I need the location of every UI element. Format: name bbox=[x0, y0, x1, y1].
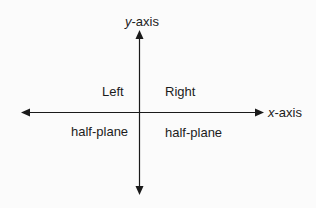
y-axis-down-arrow-icon bbox=[136, 186, 144, 195]
x-axis-label: x-axis bbox=[268, 106, 302, 119]
x-axis-left-arrow-icon bbox=[21, 109, 30, 117]
y-axis-up-arrow-icon bbox=[136, 30, 144, 39]
x-axis-right-arrow-icon bbox=[255, 109, 264, 117]
left-region-label-line1: Left bbox=[102, 85, 124, 98]
y-axis-suffix: -axis bbox=[132, 14, 159, 29]
left-region-label-line2: half-plane bbox=[71, 125, 128, 138]
right-region-label-line1: Right bbox=[165, 85, 195, 98]
axes-canvas bbox=[0, 0, 316, 208]
x-axis-suffix: -axis bbox=[275, 105, 302, 120]
right-region-label-line2: half-plane bbox=[165, 126, 222, 139]
y-axis-label: y-axis bbox=[125, 15, 159, 28]
